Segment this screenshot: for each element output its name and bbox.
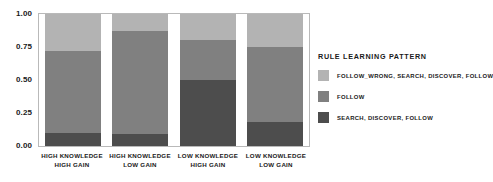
- x-axis-label-1: HIGH KNOWLEDGE LOW GAIN: [107, 152, 173, 169]
- stacked-bar[interactable]: [45, 14, 101, 146]
- legend-swatch-icon-0: [318, 70, 329, 81]
- stacked-bar[interactable]: [247, 14, 303, 146]
- bar-segment[interactable]: [180, 40, 236, 80]
- stacked-bar[interactable]: [112, 14, 168, 146]
- y-tick-label-2: 0.75: [0, 43, 32, 51]
- y-tick-label-1: 1.00: [0, 10, 32, 18]
- bar-segment[interactable]: [45, 51, 101, 133]
- x-axis-label-3: LOW KNOWLEDGE LOW GAIN: [243, 152, 309, 169]
- legend-item-follow[interactable]: FOLLOW: [318, 91, 490, 102]
- bar-segment[interactable]: [180, 14, 236, 40]
- legend-swatch-icon-1: [318, 91, 329, 102]
- plot-area: [39, 14, 309, 146]
- bar-group-0: [45, 14, 101, 146]
- bar-segment[interactable]: [45, 14, 101, 51]
- x-axis-label-3-line2: LOW GAIN: [243, 161, 309, 170]
- bar-segment[interactable]: [180, 80, 236, 146]
- bar-group-3: [247, 14, 303, 146]
- y-tick-label-3: 0.50: [0, 76, 32, 84]
- y-tick-label-5: 0.00: [0, 142, 32, 150]
- y-tick-label-4: 0.25: [0, 109, 32, 117]
- legend: RULE LEARNING PATTERN FOLLOW_WRONG, SEAR…: [318, 52, 490, 133]
- legend-title: RULE LEARNING PATTERN: [318, 52, 490, 61]
- stacked-bar[interactable]: [180, 14, 236, 146]
- bar-group-2: [180, 14, 236, 146]
- bar-segment[interactable]: [112, 134, 168, 146]
- bar-segment[interactable]: [247, 122, 303, 146]
- x-axis-label-2-line2: HIGH GAIN: [175, 161, 241, 170]
- legend-item-search-discover-follow[interactable]: SEARCH, DISCOVER, FOLLOW: [318, 112, 490, 123]
- bar-segment[interactable]: [247, 47, 303, 122]
- x-axis-label-3-line1: LOW KNOWLEDGE: [243, 152, 309, 161]
- x-axis-label-1-line1: HIGH KNOWLEDGE: [107, 152, 173, 161]
- legend-label-1: FOLLOW: [337, 94, 365, 100]
- bar-group-1: [112, 14, 168, 146]
- x-axis-label-0-line2: HIGH GAIN: [39, 161, 105, 170]
- legend-item-follow-wrong-search-discover-follow[interactable]: FOLLOW_WRONG, SEARCH, DISCOVER, FOLLOW: [318, 70, 490, 81]
- legend-label-2: SEARCH, DISCOVER, FOLLOW: [337, 115, 433, 121]
- bar-segment[interactable]: [45, 133, 101, 146]
- bar-segment[interactable]: [112, 31, 168, 134]
- x-axis-label-0-line1: HIGH KNOWLEDGE: [39, 152, 105, 161]
- y-axis: 1.00 0.75 0.50 0.25 0.00: [0, 0, 36, 182]
- x-axis-label-2: LOW KNOWLEDGE HIGH GAIN: [175, 152, 241, 169]
- x-axis-label-0: HIGH KNOWLEDGE HIGH GAIN: [39, 152, 105, 169]
- bar-segment[interactable]: [112, 14, 168, 31]
- x-axis-label-1-line2: LOW GAIN: [107, 161, 173, 170]
- bar-segment[interactable]: [247, 14, 303, 47]
- x-axis-label-2-line1: LOW KNOWLEDGE: [175, 152, 241, 161]
- legend-swatch-icon-2: [318, 112, 329, 123]
- legend-label-0: FOLLOW_WRONG, SEARCH, DISCOVER, FOLLOW: [337, 73, 493, 79]
